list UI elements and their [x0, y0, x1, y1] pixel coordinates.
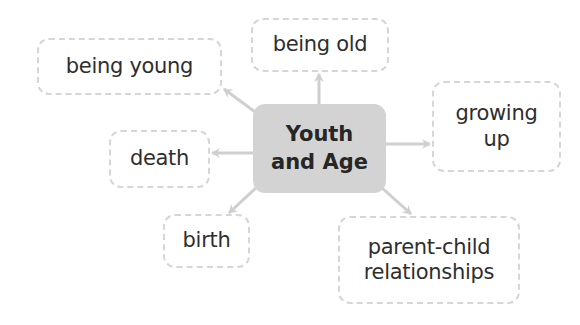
node-label-line2: up — [483, 127, 509, 152]
arrow-to-birth — [229, 186, 258, 213]
central-topic: Youth and Age — [253, 104, 386, 193]
node-being-old: being old — [251, 18, 389, 72]
node-label-line1: growing — [456, 101, 538, 126]
node-label-line1: parent-child — [368, 235, 491, 260]
node-label: being old — [273, 32, 368, 57]
node-being-young: being young — [37, 38, 222, 95]
node-label-line2: relationships — [364, 260, 494, 285]
node-label: birth — [183, 228, 231, 253]
node-parent-child-relationships: parent-child relationships — [338, 216, 520, 304]
node-death: death — [109, 130, 210, 188]
node-birth: birth — [163, 214, 250, 268]
arrow-to-parent-child — [381, 187, 411, 214]
node-growing-up: growing up — [432, 81, 561, 172]
central-topic-line2: and Age — [271, 149, 368, 176]
node-label: being young — [66, 54, 193, 79]
node-label: death — [130, 146, 189, 171]
arrow-to-being-young — [224, 89, 258, 114]
central-topic-line1: Youth — [286, 121, 354, 148]
concept-web-diagram: Youth and Age being young being old grow… — [0, 0, 580, 325]
